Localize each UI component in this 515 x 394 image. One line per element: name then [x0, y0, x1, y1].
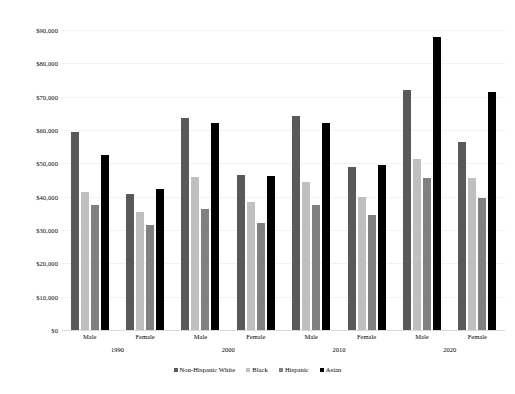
x-axis-year-label: 1990 — [111, 346, 124, 353]
bar — [302, 182, 310, 330]
bar — [292, 116, 300, 330]
bar — [488, 92, 496, 330]
bar — [91, 205, 99, 330]
bar — [156, 189, 164, 330]
bar — [71, 132, 79, 330]
bar — [378, 165, 386, 330]
x-axis-year-label: 2020 — [443, 346, 456, 353]
y-axis-tick-label: $0 — [0, 327, 58, 334]
x-axis-category-label: Female — [246, 333, 265, 340]
x-axis-category-label: Male — [194, 333, 207, 340]
legend-item[interactable]: Black — [246, 366, 268, 373]
legend-item[interactable]: Asian — [320, 366, 342, 373]
bar-chart: $0$10,000$20,000$30,000$40,000$50,000$60… — [0, 0, 515, 394]
bar — [237, 175, 245, 330]
y-axis-tick-label: $20,000 — [0, 260, 58, 267]
x-axis-year-label: 2000 — [222, 346, 235, 353]
legend-swatch-icon — [320, 368, 324, 372]
bar-group — [284, 30, 339, 330]
bar — [322, 123, 330, 330]
bar — [257, 223, 265, 330]
y-axis-tick-label: $10,000 — [0, 293, 58, 300]
bar-group — [394, 30, 449, 330]
bar-group — [339, 30, 394, 330]
y-axis-tick-label: $50,000 — [0, 160, 58, 167]
y-axis-tick-label: $30,000 — [0, 227, 58, 234]
bar-group — [450, 30, 505, 330]
chart-legend: Non-Hispanic WhiteBlackHispanicAsian — [0, 366, 515, 373]
y-axis-tick-label: $80,000 — [0, 60, 58, 67]
legend-item[interactable]: Hispanic — [279, 366, 309, 373]
bar — [468, 178, 476, 330]
legend-label: Non-Hispanic White — [180, 366, 236, 373]
bar-group — [117, 30, 172, 330]
y-axis-tick-label: $40,000 — [0, 193, 58, 200]
bar — [211, 123, 219, 330]
bar-group — [62, 30, 117, 330]
x-axis-category-label: Male — [415, 333, 428, 340]
legend-swatch-icon — [174, 368, 178, 372]
bar — [413, 159, 421, 330]
bar — [433, 37, 441, 330]
bar-group — [173, 30, 228, 330]
legend-label: Asian — [326, 366, 342, 373]
bar — [136, 212, 144, 330]
x-axis: MaleFemaleMaleFemaleMaleFemaleMaleFemale… — [62, 330, 505, 370]
y-axis-tick-label: $90,000 — [0, 27, 58, 34]
legend-swatch-icon — [246, 368, 250, 372]
bar — [348, 167, 356, 330]
x-axis-category-label: Female — [357, 333, 376, 340]
x-axis-category-label: Male — [83, 333, 96, 340]
bar — [81, 192, 89, 330]
x-axis-category-label: Female — [468, 333, 487, 340]
y-axis-tick-label: $60,000 — [0, 127, 58, 134]
bar — [181, 118, 189, 330]
bar — [403, 90, 411, 330]
legend-item[interactable]: Non-Hispanic White — [174, 366, 236, 373]
bar — [312, 205, 320, 330]
bar — [423, 178, 431, 330]
bar — [146, 225, 154, 330]
legend-label: Hispanic — [285, 366, 309, 373]
bars-layer — [62, 30, 505, 330]
legend-swatch-icon — [279, 368, 283, 372]
bar — [358, 197, 366, 330]
y-axis: $0$10,000$20,000$30,000$40,000$50,000$60… — [0, 0, 58, 394]
bar — [368, 215, 376, 330]
bar — [247, 202, 255, 330]
bar — [478, 198, 486, 330]
legend-label: Black — [252, 366, 268, 373]
bar — [267, 176, 275, 330]
bar — [101, 155, 109, 330]
y-axis-tick-label: $70,000 — [0, 93, 58, 100]
bar — [126, 194, 134, 330]
bar — [201, 209, 209, 330]
x-axis-category-label: Male — [305, 333, 318, 340]
bar — [458, 142, 466, 330]
bar-group — [228, 30, 283, 330]
plot-area — [62, 30, 505, 330]
x-axis-category-label: Female — [135, 333, 154, 340]
x-axis-year-label: 2010 — [332, 346, 345, 353]
bar — [191, 177, 199, 330]
